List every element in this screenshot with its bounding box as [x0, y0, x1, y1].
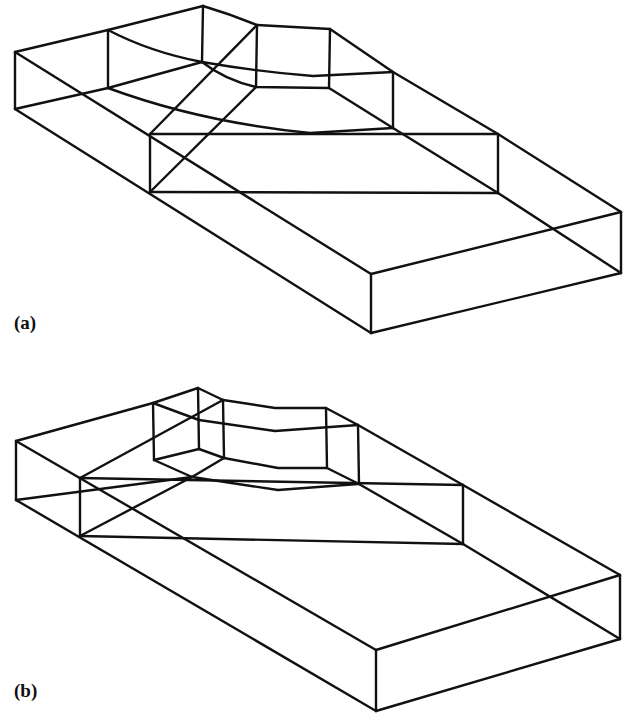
panel-label-b: (b): [14, 680, 37, 702]
figure-canvas: (a) (b): [0, 0, 629, 724]
panel-label-a: (a): [14, 312, 36, 334]
wireframe-drawing-b: [16, 388, 620, 711]
wireframe-figure: [0, 0, 629, 724]
wireframe-drawing-a: [15, 6, 621, 333]
